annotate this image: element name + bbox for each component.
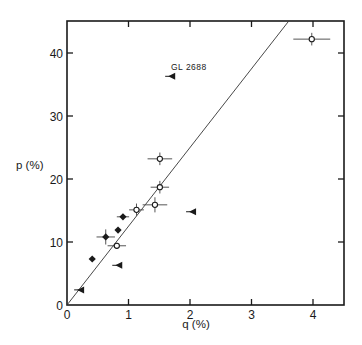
data-point (151, 181, 169, 194)
y-tick-label: 30 (50, 110, 64, 124)
open-circle-marker (157, 156, 162, 161)
filled-triangle-marker (168, 73, 175, 80)
filled-triangle-marker (189, 208, 196, 215)
data-point (114, 226, 121, 233)
x-tick-label: 3 (248, 308, 255, 322)
filled-triangle-marker (115, 262, 122, 269)
data-point (143, 197, 168, 212)
data-point (186, 208, 196, 215)
annotation-gl2688: GL 2688 (171, 62, 207, 72)
data-point (129, 204, 144, 217)
filled-diamond-marker (119, 213, 126, 220)
data-point (165, 73, 175, 80)
open-circle-marker (152, 202, 157, 207)
open-circle-marker (114, 243, 119, 248)
data-point (74, 286, 84, 293)
data-point (148, 153, 173, 166)
open-circle-marker (309, 37, 314, 42)
scatter-chart: 01234010203040 q (%) p (%) GL 2688 (0, 0, 362, 345)
filled-diamond-marker (114, 226, 121, 233)
open-circle-marker (157, 185, 162, 190)
open-circle-marker (134, 207, 139, 212)
y-tick-label: 20 (50, 173, 64, 187)
x-tick-label: 0 (64, 308, 71, 322)
y-tick-label: 40 (50, 47, 64, 61)
data-point (117, 213, 129, 220)
y-axis-label: p (%) (16, 159, 44, 171)
data-point (108, 243, 126, 249)
x-axis-label: q (%) (182, 318, 210, 330)
x-tick-label: 4 (310, 308, 317, 322)
filled-diamond-marker (102, 233, 109, 240)
data-point (293, 33, 330, 46)
data-point (112, 262, 122, 269)
data-point (97, 229, 115, 244)
y-tick-label: 10 (50, 236, 64, 250)
tick-labels: 01234010203040 (50, 47, 317, 323)
filled-diamond-marker (89, 255, 96, 262)
x-tick-label: 1 (125, 308, 132, 322)
data-point (89, 255, 96, 262)
y-tick-label: 0 (56, 299, 63, 313)
